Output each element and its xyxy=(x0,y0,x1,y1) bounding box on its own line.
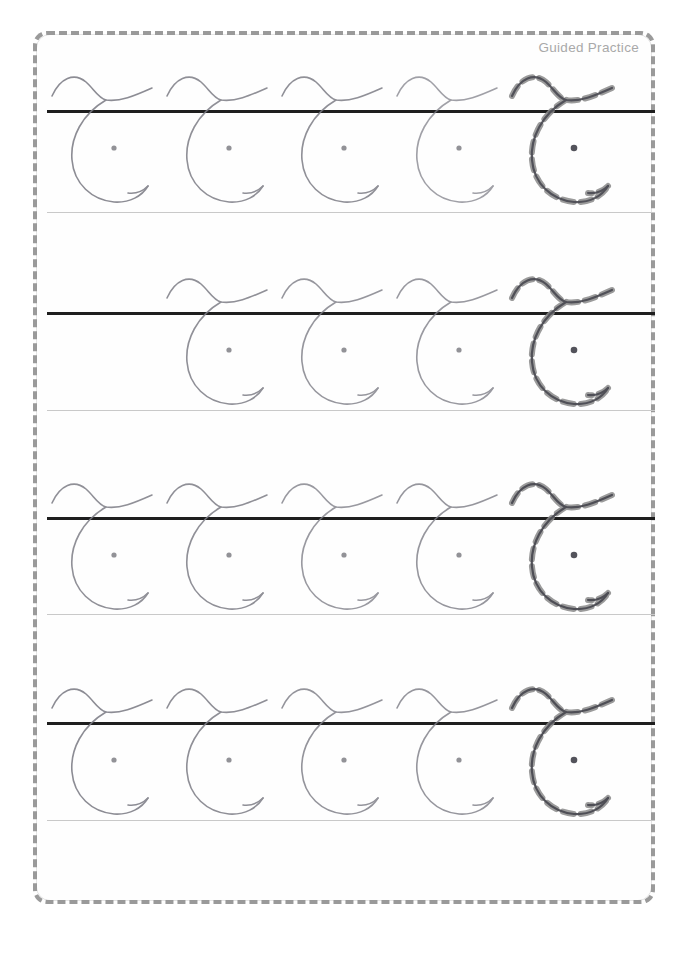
handwritten-stroke xyxy=(167,279,267,404)
start-point-dot xyxy=(341,757,346,762)
handwritten-stroke xyxy=(282,689,382,814)
handwritten-stroke xyxy=(397,689,497,814)
trace-guide xyxy=(512,484,612,609)
letter-sample xyxy=(163,459,293,619)
trace-guide xyxy=(512,279,612,404)
letter-sample xyxy=(393,254,523,414)
handwritten-stroke xyxy=(282,484,382,609)
practice-row xyxy=(47,722,655,824)
start-point-dot xyxy=(226,145,231,150)
letter-sample xyxy=(48,52,178,212)
start-point-dot xyxy=(456,145,461,150)
letter-sample xyxy=(48,664,178,824)
letter-sample xyxy=(163,52,293,212)
letter-sample xyxy=(163,664,293,824)
start-point-dot xyxy=(456,347,461,352)
handwritten-stroke xyxy=(52,689,152,814)
start-point-dot xyxy=(226,757,231,762)
handwritten-stroke xyxy=(282,279,382,404)
letter-sample xyxy=(508,459,638,619)
trace-guide xyxy=(512,77,612,202)
handwritten-stroke xyxy=(282,77,382,202)
guide-baseline xyxy=(47,212,655,213)
handwritten-stroke xyxy=(397,279,497,404)
letter-sample xyxy=(48,459,178,619)
start-point-dot xyxy=(341,552,346,557)
start-point-dot xyxy=(456,552,461,557)
letter-sample xyxy=(508,254,638,414)
practice-row xyxy=(47,110,655,216)
start-point-dot xyxy=(111,757,116,762)
handwritten-stroke xyxy=(167,689,267,814)
worksheet-page: Guided Practice xyxy=(0,0,687,963)
letter-sample xyxy=(393,52,523,212)
practice-row xyxy=(47,517,655,618)
letter-sample xyxy=(278,459,408,619)
handwritten-stroke xyxy=(167,77,267,202)
letter-sample xyxy=(508,52,638,212)
start-point-dot xyxy=(341,145,346,150)
start-point-dot xyxy=(341,347,346,352)
start-point-dot xyxy=(226,552,231,557)
letter-sample xyxy=(278,254,408,414)
handwritten-stroke xyxy=(167,484,267,609)
letter-sample xyxy=(508,664,638,824)
handwritten-stroke xyxy=(52,484,152,609)
letter-sample xyxy=(278,664,408,824)
letter-sample xyxy=(163,254,293,414)
start-point-dot xyxy=(226,347,231,352)
start-point-dot xyxy=(571,552,578,559)
handwritten-stroke xyxy=(52,77,152,202)
trace-guide xyxy=(512,689,612,814)
letter-sample xyxy=(393,664,523,824)
start-point-dot xyxy=(571,347,578,354)
handwritten-stroke xyxy=(397,77,497,202)
start-point-dot xyxy=(571,145,578,152)
letter-sample xyxy=(393,459,523,619)
start-point-dot xyxy=(456,757,461,762)
start-point-dot xyxy=(111,552,116,557)
letter-sample xyxy=(278,52,408,212)
practice-row xyxy=(47,312,655,414)
start-point-dot xyxy=(111,145,116,150)
handwritten-stroke xyxy=(397,484,497,609)
start-point-dot xyxy=(571,757,578,764)
